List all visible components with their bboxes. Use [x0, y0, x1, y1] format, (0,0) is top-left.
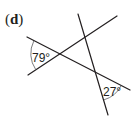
angle-label-27: 27°	[103, 85, 121, 99]
transversal-line-3	[78, 14, 108, 115]
angle-label-79: 79°	[32, 51, 50, 65]
angle-diagram: 79° 27°	[0, 0, 140, 122]
transversal-line-2	[28, 16, 117, 75]
